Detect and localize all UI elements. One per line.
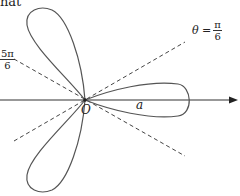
origin-label: O — [81, 103, 91, 117]
upper-petal — [27, 8, 85, 100]
petal-length-label: a — [136, 98, 143, 112]
dashed-line-5pi-over-6 — [14, 59, 185, 156]
dashed-line-pi-over-6 — [14, 42, 185, 141]
fraction-5pi-over-6-label: 5π 6 — [0, 48, 15, 71]
fraction-numerator: 5π — [0, 48, 15, 60]
lower-petal — [27, 100, 85, 192]
theta-pi-over-6-label: θ = π 6 — [192, 19, 222, 42]
axis-arrowhead-icon — [229, 97, 238, 104]
origin-point — [83, 98, 87, 102]
fraction-denominator: 6 — [4, 60, 10, 71]
theta-prefix: θ = — [192, 24, 211, 37]
fraction-denominator: 6 — [214, 31, 220, 42]
fraction-pi-over-6: π 6 — [213, 19, 222, 42]
fraction-numerator: π — [213, 19, 222, 31]
